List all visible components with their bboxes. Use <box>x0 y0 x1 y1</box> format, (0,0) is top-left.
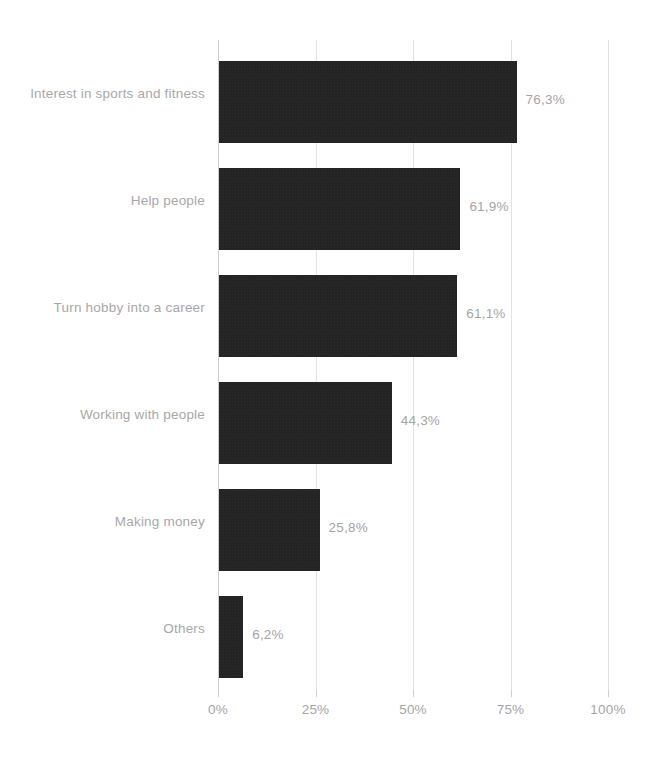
bar-chart: Interest in sports and fitness Help peop… <box>0 0 664 763</box>
category-label: Making money <box>0 468 205 575</box>
bar-value-label: 61,9% <box>469 199 508 214</box>
bar-value-label: 61,1% <box>466 306 505 321</box>
x-tick-label: 75% <box>497 702 525 717</box>
bar-band: 61,1% <box>218 254 608 361</box>
x-tick-mark <box>218 690 219 697</box>
bar-value-label: 44,3% <box>401 413 440 428</box>
bar-band: 6,2% <box>218 575 608 682</box>
x-tick-mark <box>413 690 414 697</box>
bar-value-label: 6,2% <box>252 627 284 642</box>
category-axis: Interest in sports and fitness Help peop… <box>0 40 205 690</box>
x-tick-label: 25% <box>302 702 330 717</box>
category-label: Working with people <box>0 361 205 468</box>
bar-band: 61,9% <box>218 147 608 254</box>
category-label: Others <box>0 575 205 682</box>
category-label: Turn hobby into a career <box>0 254 205 361</box>
bar <box>219 168 460 250</box>
x-tick-mark <box>511 690 512 697</box>
bar-band: 76,3% <box>218 40 608 147</box>
bar <box>219 275 457 357</box>
gridline-100 <box>608 40 609 690</box>
x-tick-label: 0% <box>208 702 228 717</box>
bar <box>219 61 517 143</box>
bar-value-label: 25,8% <box>329 520 368 535</box>
bar <box>219 596 243 678</box>
x-tick-mark <box>316 690 317 697</box>
x-tick-label: 50% <box>399 702 427 717</box>
bar-band: 25,8% <box>218 468 608 575</box>
bar <box>219 382 392 464</box>
bar-value-label: 76,3% <box>526 92 565 107</box>
category-label: Help people <box>0 147 205 254</box>
plot-area: 76,3% 61,9% 61,1% 44,3% 25,8% 6,2% <box>218 40 608 690</box>
x-tick-mark <box>608 690 609 697</box>
category-label: Interest in sports and fitness <box>0 40 205 147</box>
bar-band: 44,3% <box>218 361 608 468</box>
x-tick-label: 100% <box>590 702 625 717</box>
bar <box>219 489 320 571</box>
